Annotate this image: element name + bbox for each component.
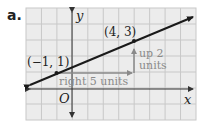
graph-svg: y x O right 5 units up 2 units (−1, 1) (… bbox=[0, 0, 202, 129]
y-axis-label: y bbox=[75, 8, 84, 23]
point-b bbox=[132, 39, 136, 43]
x-axis-label: x bbox=[184, 92, 192, 107]
origin-label: O bbox=[59, 91, 70, 106]
point-a-label: (−1, 1) bbox=[27, 55, 69, 69]
point-b-label: (4, 3) bbox=[104, 25, 136, 39]
point-a bbox=[55, 71, 59, 75]
coordinate-figure: a. y x O right 5 units bbox=[0, 0, 202, 129]
rise-label-2: units bbox=[139, 59, 167, 72]
run-label: right 5 units bbox=[59, 75, 128, 88]
